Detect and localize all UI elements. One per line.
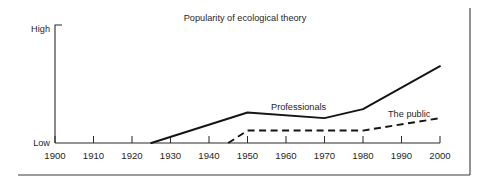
x-axis-tick-label: 1940 <box>198 150 219 161</box>
x-axis-tick-label: 1970 <box>314 150 335 161</box>
x-axis-tick-label: 1960 <box>275 150 296 161</box>
popularity-of-ecological-theory-chart: Popularity of ecological theory High Low… <box>0 0 490 183</box>
series-label-the-public: The public <box>388 109 431 119</box>
x-axis: 1900191019201930194019501960197019801990… <box>44 136 450 161</box>
y-axis-line <box>55 25 62 143</box>
x-axis-ticks <box>55 136 440 143</box>
x-axis-tick-label: 1900 <box>44 150 65 161</box>
x-axis-tick-label: 1930 <box>160 150 181 161</box>
y-axis: High Low <box>31 24 62 148</box>
chart-title: Popularity of ecological theory <box>184 13 307 23</box>
series-line-the-public <box>228 118 440 143</box>
y-axis-high-label: High <box>31 24 50 34</box>
x-axis-tick-labels: 1900191019201930194019501960197019801990… <box>44 150 450 161</box>
x-axis-tick-label: 1920 <box>121 150 142 161</box>
y-axis-low-label: Low <box>33 138 50 148</box>
x-axis-tick-label: 1950 <box>237 150 258 161</box>
figure-container: Popularity of ecological theory High Low… <box>0 0 490 183</box>
x-axis-tick-label: 2000 <box>429 150 450 161</box>
x-axis-tick-label: 1910 <box>83 150 104 161</box>
x-axis-tick-label: 1990 <box>391 150 412 161</box>
series-label-professionals: Professionals <box>271 102 327 112</box>
x-axis-tick-label: 1980 <box>352 150 373 161</box>
